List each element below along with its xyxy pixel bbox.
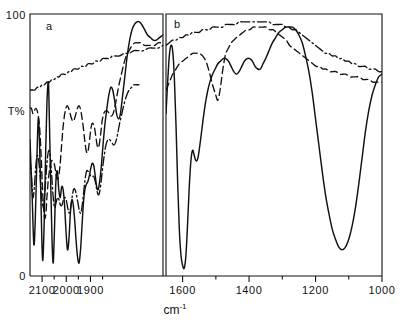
x-tick-label-1600: 1600 [169,284,196,296]
series-b-solid-curve [166,27,382,269]
series-a-dash-dot-curve [30,45,163,90]
x-tick-label-1900: 1900 [77,284,104,296]
spectra-plot: 21002000190016001400120010001000T%abcm-1 [0,0,406,321]
x-axis-unit-exponent: -1 [179,302,187,311]
y-tick-label-100: 100 [6,9,26,21]
panel-b-curves [166,22,382,269]
x-tick-label-1400: 1400 [236,284,263,296]
figure-container: 21002000190016001400120010001000T%abcm-1 [0,0,406,321]
x-tick-label-1200: 1200 [302,284,329,296]
y-axis-label: T% [8,105,25,117]
panel-a-label: a [46,20,53,32]
panel-b-label: b [174,18,180,30]
series-b-dash-dot-curve [166,22,382,72]
series-b-dashed-curve [166,27,382,101]
x-tick-label-2000: 2000 [53,284,80,296]
x-tick-label-1000: 1000 [369,284,396,296]
x-tick-label-2100: 2100 [29,284,56,296]
y-tick-label-0: 0 [19,270,26,282]
x-axis-unit-label: cm-1 [163,302,187,317]
panel-a-curves [30,22,163,264]
